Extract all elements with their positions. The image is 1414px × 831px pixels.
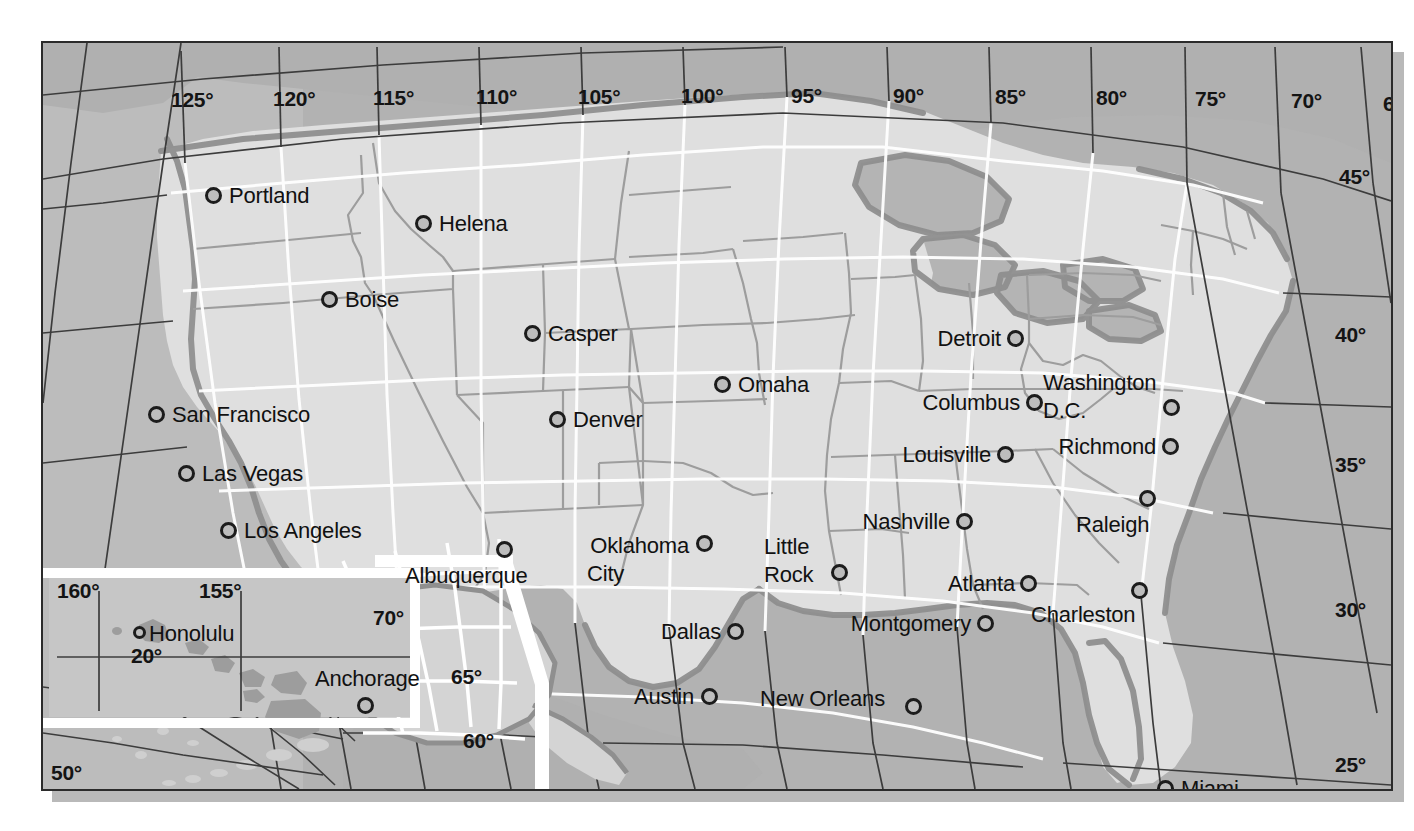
city-marker[interactable] <box>133 626 146 639</box>
city-label: Detroit <box>891 327 1001 350</box>
city-label: Atlanta <box>905 572 1015 595</box>
city-label: Charleston <box>1031 603 1135 626</box>
city-marker[interactable] <box>1020 575 1037 592</box>
city-label: Los Angeles <box>244 519 362 542</box>
city-marker[interactable] <box>357 697 374 714</box>
latitude-label: 40° <box>1335 323 1366 347</box>
city-label: Raleigh <box>1076 513 1149 536</box>
city-label: Louisville <box>861 443 991 466</box>
longitude-label: 110° <box>476 85 517 109</box>
city-marker[interactable] <box>321 291 338 308</box>
city-label: Miami <box>1181 777 1239 791</box>
city-marker[interactable] <box>1139 490 1156 507</box>
longitude-label: 115° <box>373 86 414 110</box>
longitude-label: 80° <box>1096 86 1127 110</box>
city-label: Boise <box>345 288 399 311</box>
longitude-label: 90° <box>893 84 924 108</box>
alaska-latitude-label: 60° <box>463 729 494 753</box>
alaska-latitude-label: 65° <box>451 665 482 689</box>
city-label: Casper <box>548 322 618 345</box>
city-label: Honolulu <box>149 622 234 645</box>
city-label: Columbus <box>888 391 1020 414</box>
city-marker[interactable] <box>1007 330 1024 347</box>
city-label: Oklahoma <box>541 532 689 560</box>
city-label-line2: Rock <box>764 561 813 589</box>
city-marker[interactable] <box>549 411 566 428</box>
city-label: Austin <box>588 685 694 708</box>
city-marker[interactable] <box>1131 582 1148 599</box>
city-label: Albuquerque <box>405 564 528 587</box>
map-page: 125° 120° 115° 110° 105° 100° 95° 90° 85… <box>0 0 1414 831</box>
hawaii-longitude-label: 155° <box>199 579 241 603</box>
city-marker[interactable] <box>415 215 432 232</box>
city-label: Omaha <box>738 373 809 396</box>
city-marker[interactable] <box>1162 438 1179 455</box>
longitude-label: 100° <box>681 84 723 108</box>
longitude-label: 120° <box>273 87 315 111</box>
city-label: Dallas <box>613 620 721 643</box>
city-label: Montgomery <box>825 612 971 635</box>
longitude-label: 65° <box>1383 92 1393 116</box>
city-marker[interactable] <box>977 615 994 632</box>
city-marker[interactable] <box>696 535 713 552</box>
city-label: Washington <box>1043 369 1193 397</box>
city-marker[interactable] <box>831 564 848 581</box>
city-label: Nashville <box>828 510 950 533</box>
latitude-label: 45° <box>1339 165 1370 189</box>
hawaii-longitude-label: 160° <box>57 579 99 603</box>
city-label: Denver <box>573 408 643 431</box>
longitude-label: 105° <box>578 85 620 109</box>
hawaii-latitude-label: 20° <box>131 644 162 668</box>
city-label: San Francisco <box>172 403 310 426</box>
city-marker[interactable] <box>524 325 541 342</box>
city-marker[interactable] <box>205 187 222 204</box>
city-label: Richmond <box>1028 435 1156 458</box>
latitude-label: 25° <box>1335 753 1366 777</box>
city-label: Las Vegas <box>202 462 303 485</box>
us-reference-map[interactable]: 125° 120° 115° 110° 105° 100° 95° 90° 85… <box>41 41 1393 791</box>
city-label-line2: City <box>587 560 735 588</box>
longitude-label: 70° <box>1291 89 1322 113</box>
city-marker[interactable] <box>1026 394 1043 411</box>
city-marker[interactable] <box>178 465 195 482</box>
city-marker[interactable] <box>905 698 922 715</box>
city-marker[interactable] <box>714 376 731 393</box>
longitude-label: 125° <box>171 88 213 112</box>
city-marker[interactable] <box>220 522 237 539</box>
longitude-label: 95° <box>791 84 822 108</box>
city-label: Portland <box>229 184 309 207</box>
longitude-label: 85° <box>995 85 1026 109</box>
city-marker[interactable] <box>956 513 973 530</box>
city-label: Anchorage <box>315 667 420 690</box>
city-marker[interactable] <box>1157 780 1174 791</box>
latitude-label: 35° <box>1335 453 1366 477</box>
city-marker[interactable] <box>148 406 165 423</box>
city-marker[interactable] <box>496 541 513 558</box>
city-marker[interactable] <box>997 446 1014 463</box>
city-label: Little <box>764 533 809 561</box>
alaska-latitude-label: 50° <box>51 761 82 785</box>
alaska-latitude-label: 70° <box>373 606 404 630</box>
city-marker[interactable] <box>727 623 744 640</box>
top-caption <box>0 0 1414 16</box>
city-marker[interactable] <box>701 688 718 705</box>
longitude-label: 75° <box>1195 87 1226 111</box>
city-label-line2: D.C. <box>1043 397 1193 425</box>
city-label: New Orleans <box>760 687 885 710</box>
latitude-label: 30° <box>1335 598 1366 622</box>
city-label: Helena <box>439 212 508 235</box>
